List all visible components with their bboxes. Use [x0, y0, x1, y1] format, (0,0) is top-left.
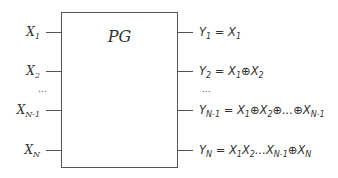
- output-line-1: [178, 32, 193, 33]
- input-variable: X2: [26, 64, 40, 78]
- output-variable: YN-1: [199, 103, 220, 117]
- output-ellipsis: ...: [202, 84, 211, 94]
- input-line-n: [46, 150, 61, 151]
- input-variable: XN-1: [17, 103, 40, 117]
- block-title: PG: [62, 27, 177, 46]
- xor-operator: ...: [255, 143, 266, 157]
- term-variable: XN-1: [266, 143, 288, 157]
- xor-operator: ⊕: [250, 103, 260, 117]
- term-variable: XN-1: [303, 103, 325, 117]
- term-variable: X2: [251, 64, 264, 78]
- output-line-2: [178, 71, 193, 72]
- input-variable: XN: [24, 143, 40, 157]
- term-variable: X1: [229, 143, 242, 157]
- equals-sign: =: [211, 64, 228, 78]
- term-variable: X1: [228, 25, 241, 39]
- input-label: X1: [26, 25, 40, 44]
- output-equation: YN-1 = X1⊕X2⊕...⊕XN-1: [199, 103, 325, 122]
- equals-sign: =: [220, 103, 237, 117]
- output-variable: Y1: [199, 25, 211, 39]
- xor-operator: ⊕...⊕: [273, 103, 303, 117]
- output-equation: YN = X1X2...XN-1⊕XN: [199, 143, 311, 162]
- input-line-1: [46, 32, 61, 33]
- term-variable: XN: [297, 143, 311, 157]
- input-line-n-1: [46, 110, 61, 111]
- input-label: XN-1: [17, 103, 40, 122]
- input-ellipsis: ...: [38, 84, 47, 94]
- term-variable: X1: [237, 103, 250, 117]
- output-line-n: [178, 150, 193, 151]
- term-variable: X1: [228, 64, 241, 78]
- equals-sign: =: [211, 25, 228, 39]
- xor-operator: ⊕: [241, 64, 251, 78]
- pg-gate-block: PG: [61, 12, 178, 168]
- input-label: XN: [24, 143, 40, 162]
- output-variable: YN: [199, 143, 212, 157]
- xor-operator: ⊕: [288, 143, 298, 157]
- term-variable: X2: [260, 103, 273, 117]
- output-equation: Y1 = X1: [199, 25, 241, 44]
- input-line-2: [46, 71, 61, 72]
- output-variable: Y2: [199, 64, 211, 78]
- equals-sign: =: [212, 143, 229, 157]
- input-label: X2: [26, 64, 40, 83]
- term-variable: X2: [242, 143, 255, 157]
- output-line-n-1: [178, 110, 193, 111]
- input-variable: X1: [26, 25, 40, 39]
- output-equation: Y2 = X1⊕X2: [199, 64, 264, 83]
